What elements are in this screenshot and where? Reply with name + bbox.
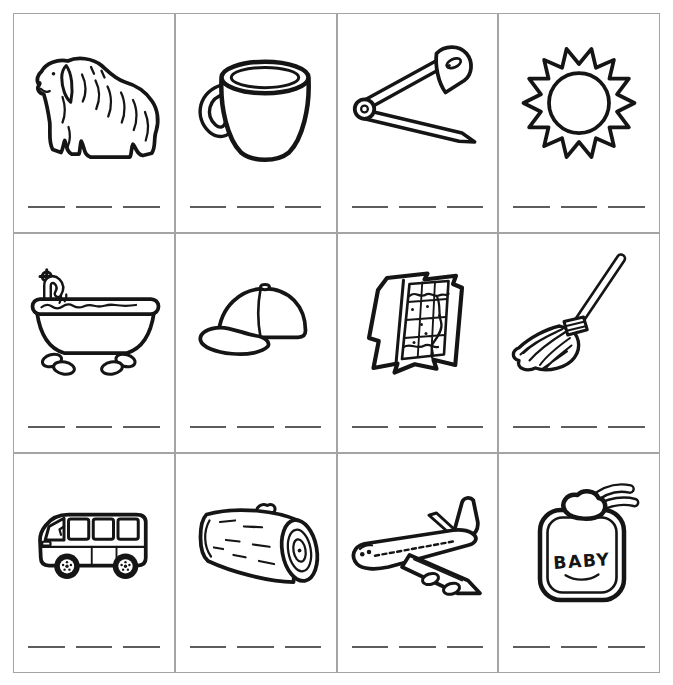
card-mop	[498, 233, 660, 453]
card-cap	[175, 233, 337, 453]
letter-blank	[513, 646, 550, 648]
letter-blank	[608, 646, 645, 648]
letter-blank	[561, 646, 598, 648]
answer-blanks	[513, 646, 645, 648]
bib-text: BABY	[553, 549, 611, 573]
letter-blank	[399, 646, 436, 648]
letter-blank	[123, 426, 160, 428]
card-bib: BABY	[498, 453, 660, 673]
log-image	[181, 464, 331, 622]
card-sun	[498, 13, 660, 233]
letter-blank	[28, 206, 65, 208]
card-dog	[13, 13, 175, 233]
letter-blank	[237, 646, 274, 648]
answer-blanks	[352, 646, 484, 648]
answer-blanks	[28, 426, 160, 428]
van-image	[19, 464, 169, 622]
letter-blank	[237, 206, 274, 208]
bathtub-image	[19, 244, 169, 402]
cup-image	[181, 24, 331, 182]
letter-blank	[123, 646, 160, 648]
letter-blank	[285, 426, 322, 428]
card-jet	[337, 453, 499, 673]
letter-blank	[352, 426, 389, 428]
map-image	[342, 244, 492, 402]
dog-image	[19, 24, 169, 182]
card-van	[13, 453, 175, 673]
letter-blank	[399, 206, 436, 208]
letter-blank	[447, 426, 484, 428]
jet-plane-image	[342, 464, 492, 622]
answer-blanks	[352, 426, 484, 428]
letter-blank	[28, 426, 65, 428]
letter-blank	[513, 426, 550, 428]
card-grid: BABY	[13, 13, 660, 673]
sun-image	[504, 24, 654, 182]
answer-blanks	[190, 646, 322, 648]
letter-blank	[76, 646, 113, 648]
card-tub	[13, 233, 175, 453]
letter-blank	[190, 646, 227, 648]
letter-blank	[399, 426, 436, 428]
letter-blank	[447, 646, 484, 648]
baby-bib-image: BABY	[504, 464, 654, 622]
letter-blank	[285, 646, 322, 648]
cap-image	[181, 244, 331, 402]
card-cup	[175, 13, 337, 233]
letter-blank	[561, 426, 598, 428]
letter-blank	[352, 646, 389, 648]
card-pin	[337, 13, 499, 233]
letter-blank	[352, 206, 389, 208]
answer-blanks	[513, 206, 645, 208]
letter-blank	[608, 206, 645, 208]
letter-blank	[28, 646, 65, 648]
letter-blank	[237, 426, 274, 428]
letter-blank	[513, 206, 550, 208]
letter-blank	[76, 426, 113, 428]
worksheet-page: BABY	[0, 0, 673, 685]
letter-blank	[608, 426, 645, 428]
letter-blank	[190, 426, 227, 428]
answer-blanks	[28, 206, 160, 208]
answer-blanks	[190, 206, 322, 208]
letter-blank	[561, 206, 598, 208]
letter-blank	[190, 206, 227, 208]
letter-blank	[76, 206, 113, 208]
mop-image	[504, 244, 654, 402]
letter-blank	[447, 206, 484, 208]
safety-pin-image	[342, 24, 492, 182]
answer-blanks	[28, 646, 160, 648]
answer-blanks	[190, 426, 322, 428]
answer-blanks	[352, 206, 484, 208]
letter-blank	[285, 206, 322, 208]
card-map	[337, 233, 499, 453]
card-log	[175, 453, 337, 673]
answer-blanks	[513, 426, 645, 428]
letter-blank	[123, 206, 160, 208]
